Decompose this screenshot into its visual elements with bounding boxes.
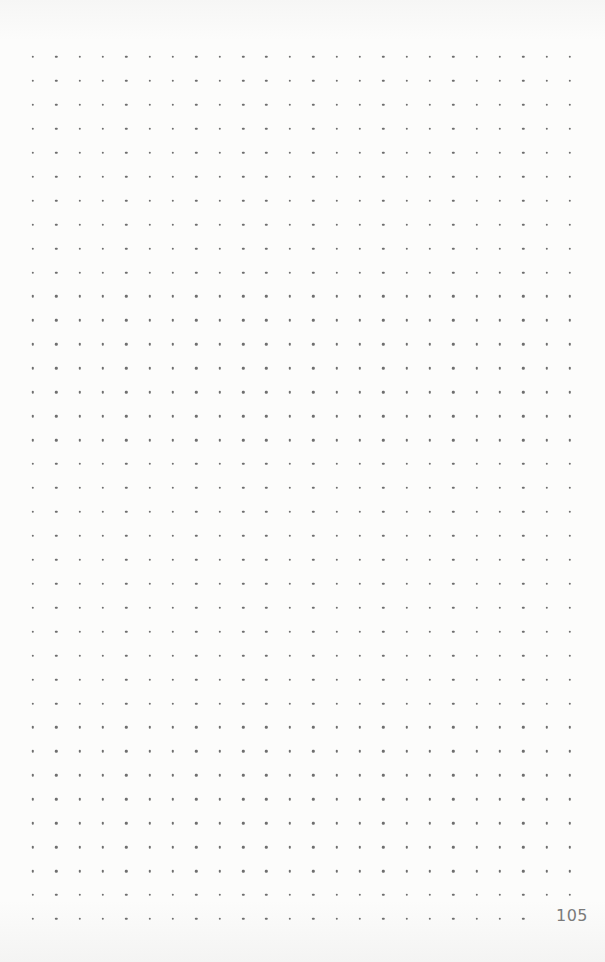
grid-dot [55,487,57,489]
grid-dot [475,295,477,297]
grid-dot [195,391,197,393]
grid-dot [55,654,57,656]
grid-dot [405,463,407,465]
grid-dot [195,846,197,848]
grid-dot [429,128,431,130]
grid-dot [452,199,454,201]
grid-dot [452,319,454,321]
grid-dot [312,56,314,58]
grid-dot [149,439,151,441]
grid-dot [125,319,127,321]
grid-dot [195,894,197,896]
grid-dot [475,271,477,273]
grid-dot [219,630,221,632]
grid-dot [289,176,291,178]
grid-dot [172,319,174,321]
grid-dot [242,271,244,273]
grid-dot [522,463,524,465]
grid-dot [125,271,127,273]
grid-dot [149,415,151,417]
grid-dot [569,559,571,561]
grid-dot [359,343,361,345]
grid-dot [452,798,454,800]
grid-dot [382,607,384,609]
grid-dot [382,56,384,58]
grid-dot [359,511,361,513]
grid-dot [382,223,384,225]
grid-dot [522,80,524,82]
grid-dot [242,607,244,609]
grid-dot [78,319,80,321]
grid-dot [289,128,291,130]
grid-dot [195,199,197,201]
grid-dot [569,104,571,106]
grid-dot [172,391,174,393]
grid-dot [475,56,477,58]
grid-dot [429,223,431,225]
grid-dot [359,463,361,465]
grid-dot [265,128,267,130]
grid-dot [289,271,291,273]
grid-dot [32,535,34,537]
grid-dot [289,343,291,345]
grid-dot [522,726,524,728]
grid-dot [312,439,314,441]
grid-dot [219,80,221,82]
grid-dot [569,654,571,656]
grid-dot [452,822,454,824]
grid-dot [545,535,547,537]
grid-dot [149,511,151,513]
grid-dot [242,918,244,920]
grid-dot [429,846,431,848]
grid-dot [475,726,477,728]
grid-dot [499,295,501,297]
grid-dot [382,870,384,872]
grid-dot [219,535,221,537]
grid-dot [242,152,244,154]
grid-dot [149,630,151,632]
grid-dot [452,487,454,489]
grid-dot [312,559,314,561]
grid-dot [32,798,34,800]
grid-dot [219,199,221,201]
grid-dot [242,104,244,106]
grid-dot [335,559,337,561]
grid-dot [382,487,384,489]
grid-dot [359,870,361,872]
grid-dot [102,583,104,585]
grid-dot [32,319,34,321]
grid-dot [172,367,174,369]
grid-dot [289,223,291,225]
grid-dot [312,750,314,752]
grid-dot [125,223,127,225]
grid-dot [102,798,104,800]
grid-dot [335,750,337,752]
grid-dot [429,894,431,896]
grid-dot [429,295,431,297]
grid-dot [149,678,151,680]
grid-dot [172,583,174,585]
grid-dot [102,223,104,225]
grid-dot [382,630,384,632]
grid-dot [545,56,547,58]
grid-dot [429,630,431,632]
grid-dot [219,774,221,776]
grid-dot [125,750,127,752]
grid-dot [475,439,477,441]
grid-dot [452,583,454,585]
grid-dot [102,702,104,704]
grid-dot [382,152,384,154]
grid-dot [312,583,314,585]
grid-dot [195,176,197,178]
grid-dot [475,176,477,178]
grid-dot [289,104,291,106]
grid-dot [359,750,361,752]
grid-dot [242,702,244,704]
grid-dot [452,176,454,178]
grid-dot [125,104,127,106]
grid-dot [195,223,197,225]
grid-dot [569,607,571,609]
grid-dot [78,654,80,656]
grid-dot [289,439,291,441]
grid-dot [475,367,477,369]
